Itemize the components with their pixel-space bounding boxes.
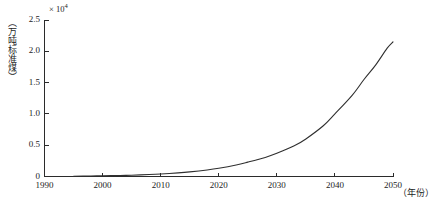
y-tick-marks bbox=[45, 20, 49, 177]
data-series-line bbox=[74, 42, 393, 176]
plot-area bbox=[0, 0, 444, 206]
chart-figure: × 104 （万吨标准煤） （年份） 00.51.01.52.02.5 1990… bbox=[0, 0, 444, 206]
